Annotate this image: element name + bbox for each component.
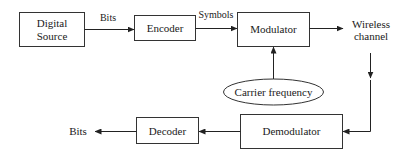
communication-system-diagram: Digital Source Bits Encoder Symbols Modu…: [0, 0, 403, 153]
modulator-node: Modulator: [238, 13, 310, 47]
wireless-channel-node: Wireless channel: [352, 18, 390, 42]
symbols-edge-label: Symbols: [198, 9, 233, 20]
carrier-frequency-node: Carrier frequency: [224, 79, 324, 105]
digital-source-label-line2: Source: [37, 30, 68, 42]
digital-source-node: Digital Source: [20, 13, 85, 47]
carrier-frequency-label: Carrier frequency: [235, 86, 313, 98]
demodulator-label: Demodulator: [262, 125, 320, 137]
decoder-node: Decoder: [137, 118, 199, 144]
demodulator-node: Demodulator: [241, 115, 343, 149]
encoder-node: Encoder: [135, 16, 196, 41]
bits-output-label: Bits: [69, 125, 87, 137]
encoder-label: Encoder: [147, 22, 184, 34]
wireless-channel-label-line1: Wireless: [352, 18, 390, 30]
digital-source-label-line1: Digital: [37, 17, 68, 29]
decoder-label: Decoder: [149, 125, 187, 137]
bits-edge-label: Bits: [100, 12, 116, 23]
arrow-channel-to-demodulator: [343, 80, 371, 132]
wireless-channel-label-line2: channel: [354, 30, 388, 42]
modulator-label: Modulator: [250, 23, 297, 35]
